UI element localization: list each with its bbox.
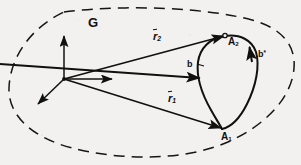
diagram-canvas — [0, 0, 301, 165]
vector-r1-arrow — [64, 79, 221, 128]
contour-right-branch — [222, 36, 258, 129]
point-A1-label: A1 — [221, 132, 232, 142]
figure-diagram: G r2 r1 A2 A1 b b* — [0, 0, 301, 165]
region-label: G — [88, 16, 98, 29]
axis-down-left-arrow — [38, 79, 64, 104]
contour-left-branch — [198, 36, 225, 129]
contour-b-star-label: b* — [258, 50, 266, 59]
contour-b-label: b — [187, 60, 193, 69]
vector-r2-label: r2 — [153, 31, 161, 43]
contour-arrow-right — [250, 47, 253, 62]
point-A2-label: A2 — [228, 37, 239, 47]
vector-r1-label: r1 — [168, 93, 176, 105]
point-A2-marker — [223, 33, 227, 37]
contour-arrow-left — [0, 64, 200, 78]
region-boundary-dashed — [9, 8, 294, 157]
vector-r2-arrow — [64, 36, 224, 79]
